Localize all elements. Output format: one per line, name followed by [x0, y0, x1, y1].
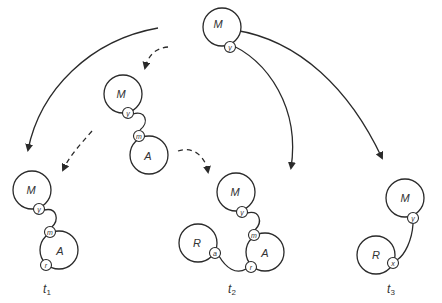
intermediate-complex: M y A m [104, 75, 168, 174]
node-a-label: A [260, 247, 268, 259]
state-label-t2: t2 [228, 282, 236, 297]
node-m-label: M [213, 18, 223, 30]
state-label-t1: t1 [43, 282, 51, 297]
arrow-top-to-t3 [234, 30, 382, 158]
port-m-label: m [251, 232, 257, 239]
state-t2: M y A m R r a t2 [179, 173, 284, 297]
state-t1: M y A m r t1 [13, 171, 78, 297]
port-y-label: y [410, 215, 415, 223]
dashed-arrow-mid-to-t2 [178, 150, 208, 172]
node-a-label: A [55, 245, 63, 257]
link-y-m [247, 213, 259, 230]
port-a-label: a [213, 250, 217, 257]
top-molecule: M y [203, 8, 241, 53]
link-y-m [133, 113, 145, 130]
port-y-label: y [227, 44, 232, 52]
node-m-label: M [116, 88, 126, 100]
port-m-label: m [47, 229, 53, 236]
port-x-label: x [390, 260, 395, 267]
port-y-label: y [125, 110, 130, 118]
node-m-label: M [26, 184, 36, 196]
port-y-label: y [36, 206, 41, 214]
state-t3: M y R x t3 [357, 179, 424, 297]
node-r-label: R [372, 249, 380, 261]
link-y-x [397, 224, 413, 260]
node-a-label: A [143, 150, 151, 162]
node-r-label: R [193, 237, 201, 249]
state-label-t3: t3 [387, 282, 395, 297]
node-m-label: M [230, 186, 240, 198]
arrow-top-to-t2 [225, 42, 293, 168]
dashed-arrow-mid-to-t1 [63, 131, 92, 170]
link-a-r [219, 256, 246, 271]
port-m-label: m [136, 133, 142, 140]
port-y-label: y [239, 209, 244, 217]
dashed-arrow-top-to-mid [145, 47, 168, 68]
diagram-canvas: M y M y A m M y A m r t1 M y A [0, 0, 442, 303]
link-y-m [44, 210, 56, 228]
node-m-label: M [400, 192, 410, 204]
